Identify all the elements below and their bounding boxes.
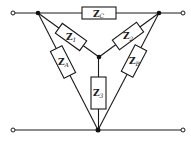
terminal-top-right	[181, 11, 185, 15]
node-bottom	[96, 128, 101, 133]
circuit-diagram: ZC Z1 Z2 Z3 ZA ZB	[0, 0, 191, 147]
node-top-right	[157, 11, 162, 16]
terminal-bottom-left	[11, 128, 15, 132]
terminal-top-left	[11, 11, 15, 15]
impedance-zb: ZB	[121, 45, 148, 79]
impedance-za: ZA	[50, 45, 77, 79]
impedance-zc: ZC	[82, 7, 116, 19]
node-star-center	[97, 55, 102, 60]
terminal-bottom-right	[181, 128, 185, 132]
impedance-z3: Z3	[91, 77, 106, 109]
node-top-left	[36, 11, 41, 16]
